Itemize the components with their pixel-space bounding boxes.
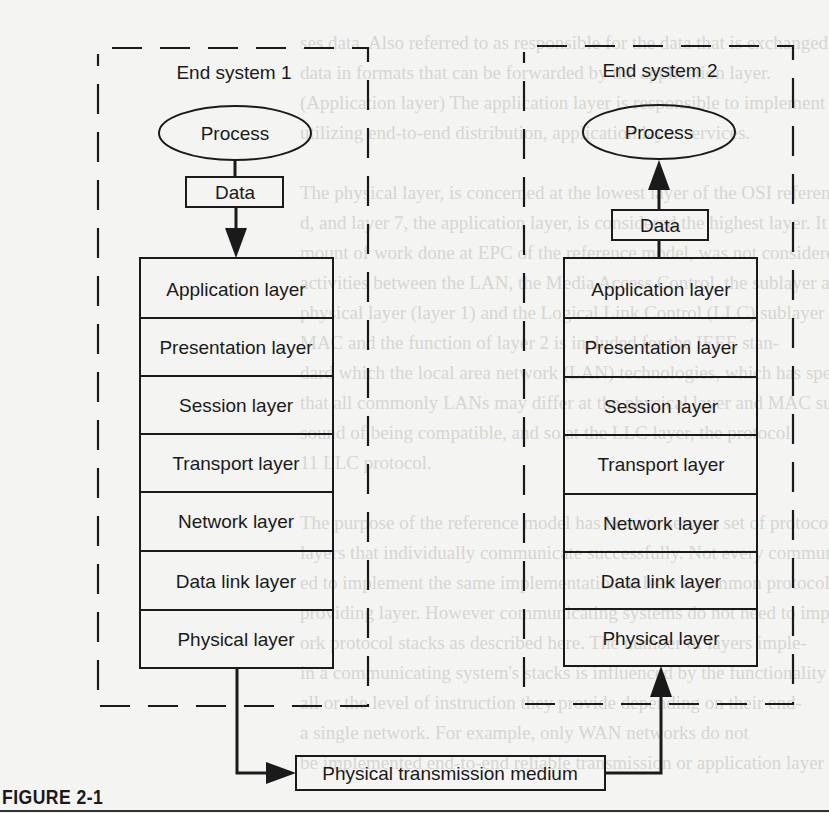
es1-layer-transport: Transport layer bbox=[172, 453, 300, 474]
es1-layer-network: Network layer bbox=[178, 511, 295, 532]
es1-to-medium-connector bbox=[237, 668, 272, 773]
end-system-2-title: End system 2 bbox=[602, 60, 717, 81]
es1-layer-application: Application layer bbox=[166, 279, 306, 300]
end-system-1-title: End system 1 bbox=[176, 62, 291, 83]
es2-layer-application: Application layer bbox=[591, 279, 731, 300]
es1-layer-session: Session layer bbox=[179, 395, 294, 416]
osi-model-diagram: End system 1 Process Data Application la… bbox=[0, 0, 829, 813]
figure-caption: FIGURE 2-1 bbox=[2, 786, 103, 809]
es1-layer-data-link: Data link layer bbox=[176, 571, 297, 592]
caption-rule bbox=[0, 810, 829, 812]
arrow-right-icon bbox=[266, 762, 296, 784]
arrow-up-icon bbox=[648, 160, 670, 190]
end-system-2-process-label: Process bbox=[625, 122, 694, 143]
es2-layer-session: Session layer bbox=[604, 396, 719, 417]
es2-layer-presentation: Presentation layer bbox=[584, 337, 738, 358]
end-system-2-data-label: Data bbox=[640, 215, 681, 236]
end-system-1-process-label: Process bbox=[201, 123, 270, 144]
end-system-2: End system 2 Process Data Application la… bbox=[524, 46, 793, 704]
es1-layer-physical: Physical layer bbox=[177, 629, 295, 650]
end-system-2-layer-stack: Application layer Presentation layer Ses… bbox=[564, 258, 757, 666]
end-system-1-layer-stack: Application layer Presentation layer Ses… bbox=[140, 258, 333, 668]
es2-layer-network: Network layer bbox=[603, 513, 720, 534]
es1-layer-presentation: Presentation layer bbox=[159, 337, 313, 358]
es2-layer-data-link: Data link layer bbox=[601, 571, 722, 592]
es2-layer-transport: Transport layer bbox=[597, 454, 725, 475]
physical-medium-link: Physical transmission medium bbox=[237, 666, 672, 790]
end-system-1: End system 1 Process Data Application la… bbox=[98, 48, 368, 706]
end-system-1-data-label: Data bbox=[215, 182, 256, 203]
physical-medium-label: Physical transmission medium bbox=[322, 763, 578, 784]
arrow-down-icon bbox=[225, 228, 247, 258]
es2-layer-physical: Physical layer bbox=[602, 628, 720, 649]
arrow-up-icon bbox=[650, 666, 672, 697]
